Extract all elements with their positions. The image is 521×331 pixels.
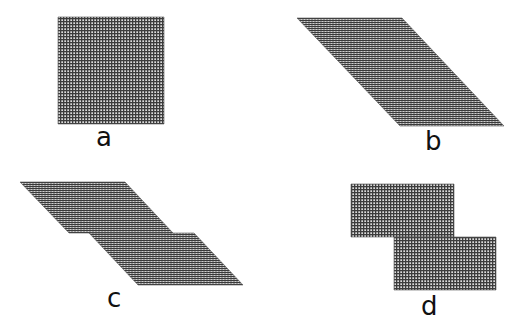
figure-canvas (0, 0, 521, 331)
panel-a (58, 17, 164, 124)
panel-d (351, 184, 496, 290)
panel-label-c: c (107, 285, 121, 311)
shape-d-part-2 (394, 237, 496, 290)
panel-label-b: b (425, 128, 442, 154)
panel-label-a: a (96, 124, 112, 150)
shape-c-part-1 (20, 182, 173, 233)
shape-c-part-2 (89, 233, 243, 285)
shape-a-part-1 (58, 17, 164, 124)
shape-d-part-1 (351, 184, 454, 237)
panel-c (20, 182, 243, 285)
panel-b (297, 18, 504, 126)
shape-b-part-1 (297, 18, 504, 126)
panel-label-d: d (421, 293, 438, 319)
